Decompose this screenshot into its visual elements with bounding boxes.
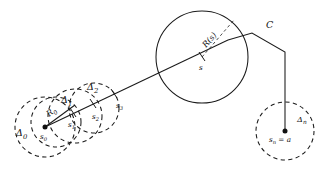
label-point-s2: s2 [92, 112, 99, 122]
label-delta-0-sub: 0 [23, 133, 28, 141]
label-point-s3: s3 [116, 101, 124, 111]
label-delta-0: Δ0 [15, 127, 28, 141]
label-delta-n-base: Δ [296, 114, 303, 124]
label-radius-s: R(s) [199, 30, 218, 50]
label-point-s1: s1 [68, 120, 75, 130]
tick-s [199, 52, 205, 61]
label-point-sn-eq: = a [276, 135, 291, 144]
point-sn-dot [283, 129, 288, 134]
label-delta-n: Δn [296, 114, 307, 125]
diagram-canvas: Δ0 Δ1 Δ2 Δn R0 R(s) s0 s1 s2 [0, 0, 336, 172]
label-point-s1-sub: 1 [72, 124, 75, 130]
label-curve-c: C [266, 19, 274, 30]
label-point-s0-sub: 0 [44, 136, 48, 142]
label-delta-1-sub: 1 [68, 100, 72, 108]
label-point-s: s [199, 63, 203, 72]
figure-root: Δ0 Δ1 Δ2 Δn R0 R(s) s0 s1 s2 [0, 0, 336, 172]
label-point-s0: s0 [40, 132, 48, 142]
main-line-s0-to-s [45, 40, 228, 127]
label-delta-2-sub: 2 [93, 87, 98, 95]
label-point-s3-sub: 3 [120, 105, 124, 111]
label-delta-0-base: Δ [15, 127, 23, 138]
label-delta-1: Δ1 [60, 94, 72, 108]
label-point-s2-sub: 2 [95, 116, 99, 122]
label-delta-2-base: Δ [86, 81, 94, 92]
label-delta-1-base: Δ [60, 94, 68, 105]
label-point-sn: sn = a [269, 135, 291, 145]
point-s0-dot [43, 125, 48, 130]
label-delta-n-sub: n [303, 119, 307, 125]
curve-c-path [228, 33, 285, 131]
